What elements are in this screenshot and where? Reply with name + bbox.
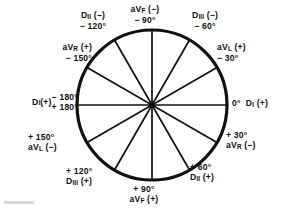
label-angle-text: + 30° [226, 130, 282, 140]
label-lead-text: DIII (−) [176, 10, 234, 21]
label-angle-text: − 60° [176, 21, 234, 31]
label-avr-positive-minus150: aVR (+) − 150° [36, 42, 92, 64]
label-angle-text: + 60° [190, 162, 246, 172]
label-dii-negative-minus120: DII (−) − 120° [64, 10, 122, 32]
label-di-positive-180: DI(+)− 180°+ 180° [4, 92, 78, 113]
label-dii-positive-plus60: + 60° DII (+) [190, 162, 246, 184]
label-lead-text: aVL (−) [28, 142, 88, 153]
label-di-positive-0: 0° DI (+) [232, 98, 282, 109]
label-angle-text: − 30° [217, 53, 273, 63]
label-lead-text: DII (+) [190, 172, 246, 183]
center-hub [149, 102, 155, 108]
label-angle-text: − 120° [64, 21, 122, 31]
label-avf-positive-plus90: + 90° aVF (+) [112, 184, 176, 206]
label-angle-and-lead: 0° DI (+) [232, 98, 282, 109]
label-lead-text: DII (−) [64, 10, 122, 21]
label-avr-negative-plus30: + 30° aVR (−) [226, 130, 282, 152]
label-angle-text: − 90° [113, 15, 177, 25]
label-avl-negative-plus150: + 150° aVL (−) [28, 132, 88, 154]
label-angle-text: + 90° [112, 184, 176, 194]
label-angle-text: − 150° [36, 53, 92, 63]
label-avl-positive-minus30: aVL (+) − 30° [217, 42, 273, 64]
label-angle-bottom: + 180° [52, 102, 78, 112]
label-lead-text: aVR (+) [36, 42, 92, 53]
label-lead-text: aVL (+) [217, 42, 273, 53]
label-angle-text: + 120° [66, 166, 128, 176]
label-lead-text: aVF (+) [112, 194, 176, 205]
label-angle-text: + 150° [28, 132, 88, 142]
label-lead-text: aVF (−) [113, 4, 177, 15]
label-angle-top: − 180° [52, 92, 78, 102]
label-angle-pair: − 180°+ 180° [52, 92, 78, 113]
scan-artifact-mark [4, 201, 34, 204]
label-lead-text: aVR (−) [226, 140, 282, 151]
label-avf-negative-minus90: aVF (−) − 90° [113, 4, 177, 26]
label-diii-negative-minus60: DIII (−) − 60° [176, 10, 234, 32]
hexaxial-reference-diagram: aVF (−) − 90° DII (−) − 120° DIII (−) − … [0, 0, 285, 210]
label-lead-text: DI(+) [32, 97, 52, 108]
